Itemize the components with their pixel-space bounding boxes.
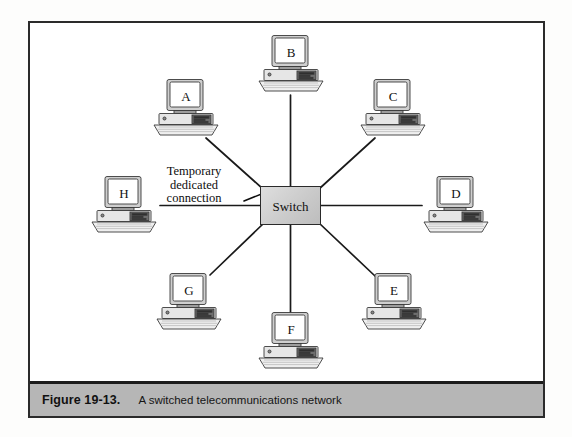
annotation-text: Temporary dedicated connection bbox=[146, 165, 242, 206]
figure-frame: Switch Temporary dedicated connection bbox=[28, 21, 545, 418]
connection-line-c bbox=[319, 138, 375, 189]
computer-node-a[interactable]: A bbox=[150, 78, 222, 140]
figure-title: A switched telecommunications network bbox=[138, 394, 341, 406]
desktop-computer-icon bbox=[150, 78, 222, 140]
computer-node-e[interactable]: E bbox=[358, 272, 430, 334]
desktop-computer-icon bbox=[88, 175, 160, 237]
desktop-computer-icon bbox=[255, 34, 327, 96]
annotation-line-3: connection bbox=[146, 192, 242, 206]
connection-line-g bbox=[210, 223, 264, 275]
computer-node-c[interactable]: C bbox=[357, 78, 429, 140]
computer-node-f[interactable]: F bbox=[255, 311, 327, 373]
computer-node-g[interactable]: G bbox=[153, 272, 225, 334]
figure-number: Figure 19-13. bbox=[42, 393, 120, 407]
annotation-line-1: Temporary bbox=[146, 165, 242, 179]
connection-line-e bbox=[319, 223, 375, 276]
desktop-computer-icon bbox=[153, 272, 225, 334]
desktop-computer-icon bbox=[357, 78, 429, 140]
switch-label: Switch bbox=[272, 200, 308, 213]
computer-node-b[interactable]: B bbox=[255, 34, 327, 96]
switch-node[interactable]: Switch bbox=[260, 186, 321, 225]
desktop-computer-icon bbox=[420, 175, 492, 237]
desktop-computer-icon bbox=[358, 272, 430, 334]
annotation-line-2: dedicated bbox=[146, 179, 242, 193]
figure-root: Switch Temporary dedicated connection bbox=[0, 0, 572, 437]
desktop-computer-icon bbox=[255, 311, 327, 373]
figure-caption-bar: Figure 19-13. A switched telecommunicati… bbox=[30, 381, 543, 416]
computer-node-h[interactable]: H bbox=[88, 175, 160, 237]
diagram-canvas: Switch Temporary dedicated connection bbox=[30, 23, 543, 381]
computer-node-d[interactable]: D bbox=[420, 175, 492, 237]
